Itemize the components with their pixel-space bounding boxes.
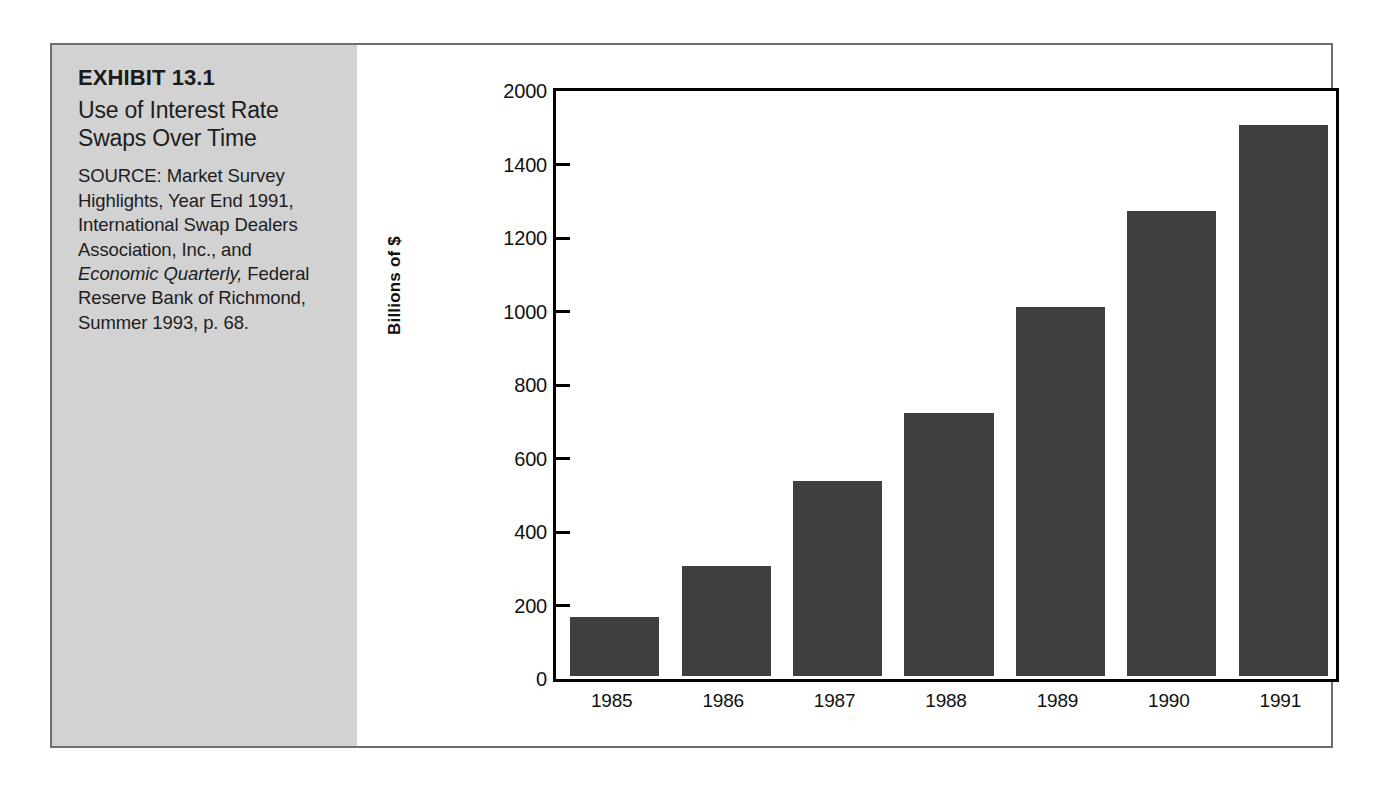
chart-region: Billions of $ 02004006008001000120014002… — [357, 45, 1331, 746]
x-axis-tick-labels: 1985198619871988198919901991 — [553, 690, 1339, 720]
y-axis-tick-label: 200 — [429, 594, 547, 617]
y-axis-tick-labels: 02004006008001000120014002000 — [419, 45, 547, 746]
exhibit-page: EXHIBIT 13.1 Use of Interest Rate Swaps … — [0, 0, 1381, 802]
source-text-part1: SOURCE: Market Survey Highlights, Year E… — [78, 165, 298, 259]
exhibit-title: Use of Interest Rate Swaps Over Time — [78, 96, 331, 152]
x-axis-tick-label: 1990 — [1148, 690, 1189, 712]
caption-panel: EXHIBIT 13.1 Use of Interest Rate Swaps … — [52, 45, 357, 746]
bar-1988 — [904, 413, 993, 676]
bar-1986 — [682, 566, 771, 676]
exhibit-number: EXHIBIT 13.1 — [78, 65, 331, 90]
bar-1985 — [570, 617, 659, 676]
source-text-italic: Economic Quarterly, — [78, 263, 242, 284]
y-axis-tick-label: 2000 — [429, 80, 547, 103]
x-axis-tick-label: 1989 — [1037, 690, 1078, 712]
y-axis-tick-label: 1400 — [429, 153, 547, 176]
x-axis-tick-label: 1991 — [1260, 690, 1301, 712]
y-axis-tick-label: 0 — [429, 668, 547, 691]
x-axis-tick-label: 1988 — [925, 690, 966, 712]
y-axis-title: Billions of $ — [385, 236, 405, 335]
x-axis-tick-label: 1986 — [702, 690, 743, 712]
exhibit-source-note: SOURCE: Market Survey Highlights, Year E… — [78, 164, 331, 335]
y-axis-tick-label: 1200 — [429, 227, 547, 250]
plot-area — [553, 88, 1339, 682]
x-axis-tick-label: 1987 — [814, 690, 855, 712]
exhibit-frame: EXHIBIT 13.1 Use of Interest Rate Swaps … — [50, 43, 1333, 748]
y-axis-tick-label: 800 — [429, 374, 547, 397]
bar-1991 — [1239, 125, 1328, 676]
bar-1987 — [793, 481, 882, 676]
y-axis-tick-label: 600 — [429, 447, 547, 470]
x-axis-tick-label: 1985 — [591, 690, 632, 712]
bar-1990 — [1127, 211, 1216, 676]
y-axis-tick-label: 400 — [429, 521, 547, 544]
bar-series — [559, 94, 1333, 676]
bar-1989 — [1016, 307, 1105, 676]
y-axis-tick-label: 1000 — [429, 300, 547, 323]
